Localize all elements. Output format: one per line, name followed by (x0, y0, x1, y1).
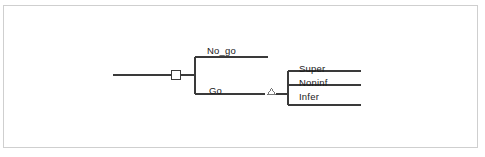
outcome-label-noninf: Noninf (299, 77, 328, 88)
outcome-label-super: Super (299, 63, 325, 74)
diagram-canvas: No_go Go Super Noninf Infer (0, 0, 485, 157)
decision-tree-graphic (0, 0, 485, 157)
decision-node-square[interactable] (172, 71, 181, 80)
branch-label-go: Go (209, 85, 222, 96)
outcome-label-infer: Infer (299, 91, 319, 102)
chance-node-triangle[interactable] (267, 88, 276, 95)
branch-label-no-go: No_go (207, 45, 236, 56)
